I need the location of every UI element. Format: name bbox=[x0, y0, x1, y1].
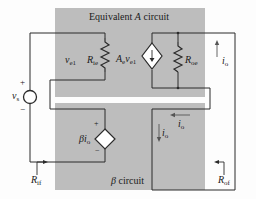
vs-minus: − bbox=[20, 105, 25, 114]
voltage-source-vs bbox=[24, 91, 37, 104]
separator-band bbox=[55, 97, 205, 103]
beta-minus: − bbox=[95, 147, 100, 155]
beta-circuit-title: β circuit bbox=[111, 176, 144, 186]
beta-source-label: βio bbox=[79, 134, 90, 146]
circuit-drawing bbox=[0, 0, 256, 199]
title-prefix: Equivalent bbox=[89, 11, 135, 22]
gain-source-label: Aeve1 bbox=[116, 54, 136, 66]
io-arrow-up-icon bbox=[215, 40, 219, 45]
feedback-circuit-diagram: Equivalent A circuit β circuit vs + − ve… bbox=[0, 0, 256, 199]
rof-arrow-icon bbox=[214, 160, 219, 164]
a-circuit-title: Equivalent A circuit bbox=[89, 12, 169, 22]
title-suffix: circuit bbox=[141, 11, 169, 22]
io-right-label: io bbox=[222, 56, 228, 68]
vs-plus: + bbox=[20, 78, 25, 87]
vs-label: vs bbox=[12, 91, 19, 103]
beta-plus: + bbox=[94, 120, 99, 128]
rof-label: Rof bbox=[218, 175, 230, 187]
io-beta-horizontal-label: io bbox=[178, 119, 184, 131]
roe-label: Roe bbox=[185, 55, 198, 67]
rif-arrow-icon bbox=[43, 160, 48, 164]
rif-label: Rif bbox=[31, 175, 41, 187]
title-suffix: circuit bbox=[116, 175, 144, 186]
ve1-label: ve1 bbox=[65, 55, 76, 67]
rie-label: Rie bbox=[87, 55, 98, 67]
io-beta-vertical-label: io bbox=[162, 128, 168, 140]
